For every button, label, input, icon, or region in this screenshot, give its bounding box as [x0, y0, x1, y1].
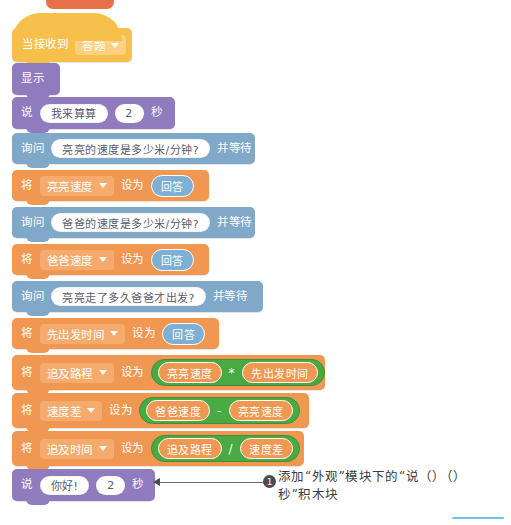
callout-leader-line: [160, 482, 264, 483]
block-when-i-receive[interactable]: 当接收到 答题: [12, 28, 132, 62]
operand-left-4[interactable]: 亮亮速度: [158, 362, 222, 383]
operand-right-5[interactable]: 亮亮速度: [229, 400, 293, 421]
operator-multiply[interactable]: 亮亮速度 * 先出发时间: [151, 359, 325, 386]
callout-text-line-2: 秒”积木块: [278, 486, 502, 504]
chevron-down-icon: [99, 183, 107, 188]
block-set-variable-5[interactable]: 将 速度差 设为 爸爸速度 - 亮亮速度: [12, 393, 309, 428]
set-label: 将: [21, 405, 33, 417]
chevron-down-icon: [99, 257, 107, 262]
set-to-label: 设为: [132, 328, 155, 340]
set-label: 将: [21, 443, 33, 455]
set-to-label: 设为: [121, 443, 144, 455]
callout-text-line-1: 添加“外观”模块下的“说（）（）: [278, 468, 502, 486]
variable-dropdown-value-4: 追及路程: [47, 365, 93, 381]
page-tab-marker: [44, 0, 116, 11]
variable-dropdown-value-6: 追及时间: [47, 441, 93, 457]
block-say-duration-2[interactable]: 说 你好! 2 秒: [12, 469, 155, 501]
chevron-down-icon: [99, 446, 107, 451]
ask-label: 询问: [21, 291, 44, 303]
operator-subtract[interactable]: 爸爸速度 - 亮亮速度: [139, 397, 300, 424]
operand-right-6[interactable]: 速度差: [240, 438, 293, 459]
set-label: 将: [21, 180, 33, 192]
subtract-symbol: -: [216, 405, 223, 417]
say-seconds-unit-2: 秒: [132, 479, 144, 491]
block-say-duration-1[interactable]: 说 我来算算 2 秒: [12, 97, 175, 129]
block-set-variable-6[interactable]: 将 追及时间 设为 追及路程 / 速度差: [12, 431, 304, 466]
set-to-label: 设为: [121, 254, 144, 266]
answer-reporter-3[interactable]: 回答: [162, 323, 205, 345]
callout-text: 添加“外观”模块下的“说（）（） 秒”积木块: [278, 468, 502, 504]
say-text-input-2[interactable]: 你好!: [40, 476, 90, 495]
operator-divide[interactable]: 追及路程 / 速度差: [151, 435, 300, 462]
callout-step-number: 1: [263, 475, 276, 488]
chevron-down-icon: [111, 43, 119, 48]
block-set-variable-2[interactable]: 将 爸爸速度 设为 回答: [12, 244, 209, 275]
message-dropdown-value: 答题: [82, 37, 105, 53]
set-to-label: 设为: [121, 180, 144, 192]
answer-reporter-2[interactable]: 回答: [151, 249, 194, 271]
block-set-variable-4[interactable]: 将 追及路程 设为 亮亮速度 * 先出发时间: [12, 355, 325, 390]
ask-label: 询问: [21, 217, 44, 229]
show-label: 显示: [21, 73, 44, 85]
operand-right-4[interactable]: 先出发时间: [242, 362, 318, 383]
ask-question-input-3[interactable]: 亮亮走了多久爸爸才出发?: [51, 287, 206, 306]
block-ask-2[interactable]: 询问 爸爸的速度是多少米/分钟? 并等待: [12, 207, 255, 238]
variable-dropdown-2[interactable]: 爸爸速度: [40, 250, 114, 270]
block-show[interactable]: 显示: [12, 63, 60, 95]
set-label: 将: [21, 254, 33, 266]
variable-dropdown-6[interactable]: 追及时间: [40, 439, 114, 459]
variable-dropdown-4[interactable]: 追及路程: [40, 363, 114, 383]
chevron-down-icon: [110, 331, 118, 336]
block-ask-3[interactable]: 询问 亮亮走了多久爸爸才出发? 并等待: [12, 281, 263, 312]
set-to-label: 设为: [121, 367, 144, 379]
answer-reporter-1[interactable]: 回答: [151, 175, 194, 197]
ask-wait-label: 并等待: [217, 217, 252, 229]
say-label: 说: [21, 107, 33, 119]
say-seconds-unit: 秒: [151, 107, 163, 119]
set-to-label: 设为: [109, 405, 132, 417]
variable-dropdown-value-3: 先出发时间: [47, 326, 105, 342]
script-canvas: 当接收到 答题 显示 说 我来算算 2 秒 询问 亮亮的速度是多少米/分钟? 并…: [0, 0, 511, 525]
variable-dropdown-value-2: 爸爸速度: [47, 252, 93, 268]
chevron-down-icon: [99, 370, 107, 375]
ask-question-input-2[interactable]: 爸爸的速度是多少米/分钟?: [51, 213, 210, 232]
variable-dropdown-value-1: 亮亮速度: [47, 178, 93, 194]
ask-wait-label: 并等待: [217, 143, 252, 155]
block-set-variable-3[interactable]: 将 先出发时间 设为 回答: [12, 318, 219, 349]
block-set-variable-1[interactable]: 将 亮亮速度 设为 回答: [12, 170, 209, 201]
message-dropdown[interactable]: 答题: [75, 35, 126, 55]
say-seconds-input-2[interactable]: 2: [96, 476, 125, 495]
multiply-symbol: *: [228, 367, 237, 379]
callout-arrow-icon: [153, 478, 160, 486]
variable-dropdown-value-5: 速度差: [47, 403, 82, 419]
say-seconds-input[interactable]: 2: [115, 104, 144, 123]
variable-dropdown-5[interactable]: 速度差: [40, 401, 103, 421]
set-label: 将: [21, 367, 33, 379]
say-text-input[interactable]: 我来算算: [40, 104, 108, 123]
block-ask-1[interactable]: 询问 亮亮的速度是多少米/分钟? 并等待: [12, 133, 255, 164]
ask-question-input-1[interactable]: 亮亮的速度是多少米/分钟?: [51, 139, 210, 158]
bottom-accent-rule: [452, 517, 504, 519]
variable-dropdown-1[interactable]: 亮亮速度: [40, 176, 114, 196]
set-label: 将: [21, 328, 33, 340]
say-label: 说: [21, 479, 33, 491]
operand-left-6[interactable]: 追及路程: [158, 438, 222, 459]
ask-wait-label: 并等待: [213, 291, 248, 303]
when-receive-label: 当接收到: [22, 39, 68, 51]
chevron-down-icon: [87, 408, 95, 413]
variable-dropdown-3[interactable]: 先出发时间: [40, 324, 126, 344]
ask-label: 询问: [21, 143, 44, 155]
operand-left-5[interactable]: 爸爸速度: [146, 400, 210, 421]
divide-symbol: /: [228, 443, 235, 455]
